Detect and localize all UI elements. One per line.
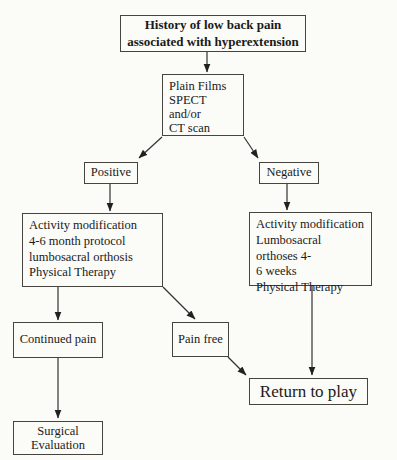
- node-imaging-tests: Plain Films SPECT and/or CT scan: [162, 74, 244, 136]
- node-continued-pain: Continued pain: [13, 322, 103, 358]
- flowchart: History of low back pain associated with…: [0, 0, 397, 460]
- arrow-imaging-positive: [139, 137, 162, 158]
- node-history-of-low-back-pain: History of low back pain associated with…: [120, 15, 306, 52]
- arrow-treatment-pain-free: [163, 287, 195, 319]
- node-negative: Negative: [259, 162, 319, 184]
- arrow-pain-free-return: [228, 357, 246, 375]
- node-positive: Positive: [84, 162, 138, 184]
- arrow-imaging-negative: [244, 137, 258, 158]
- node-return-to-play: Return to play: [249, 378, 368, 405]
- node-positive-treatment: Activity modification 4-6 month protocol…: [22, 213, 163, 287]
- node-pain-free: Pain free: [172, 322, 229, 357]
- node-negative-treatment: Activity modification Lumbosacral orthos…: [249, 212, 372, 286]
- node-surgical-evaluation: Surgical Evaluation: [13, 421, 103, 455]
